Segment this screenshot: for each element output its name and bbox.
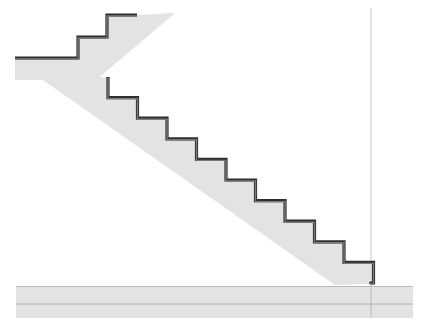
lower-stair-flight <box>43 77 374 285</box>
slab-body <box>16 286 413 318</box>
upper-flight-body <box>15 13 175 80</box>
upper-stair-flight <box>15 13 175 80</box>
stair-section-diagram <box>0 0 421 324</box>
diagram-canvas <box>0 0 421 324</box>
floor-slab <box>16 286 413 318</box>
lower-flight-body <box>43 77 374 285</box>
